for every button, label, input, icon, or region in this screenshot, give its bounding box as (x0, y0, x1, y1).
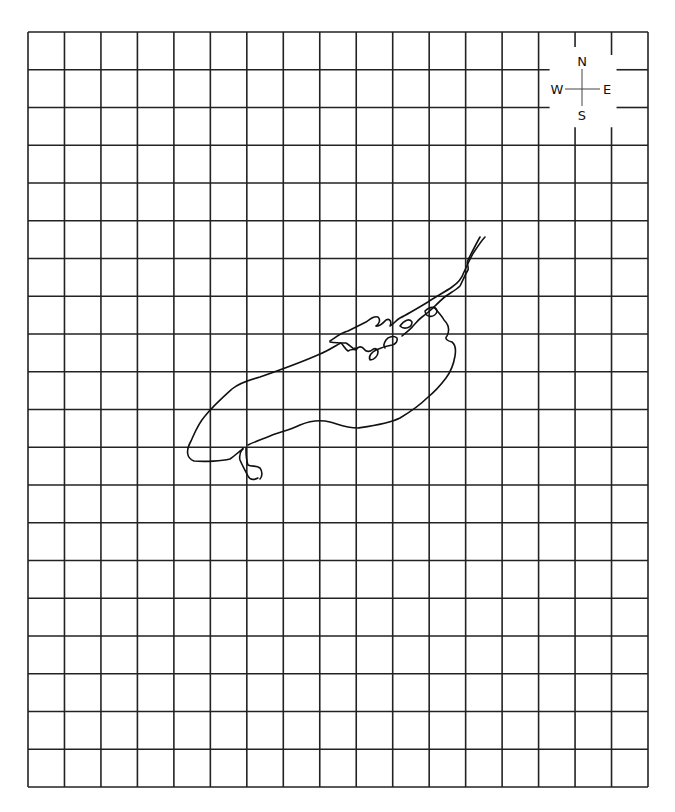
bay-arm (330, 337, 397, 360)
lake-outline (188, 237, 485, 479)
compass-rose: N S E W (551, 54, 612, 123)
grid-map: N S E W (0, 0, 675, 812)
grid (28, 32, 648, 787)
compass-north-label: N (577, 54, 587, 69)
west-river-right (246, 448, 262, 479)
compass-east-label: E (603, 82, 611, 97)
compass-west-label: W (551, 82, 564, 97)
southeast-river-bank (402, 237, 480, 336)
compass-south-label: S (578, 108, 586, 123)
east-shore (248, 307, 456, 445)
west-river-left (240, 448, 258, 479)
islands (400, 320, 412, 328)
northeast-shore (330, 237, 485, 341)
north-shore (188, 343, 356, 461)
